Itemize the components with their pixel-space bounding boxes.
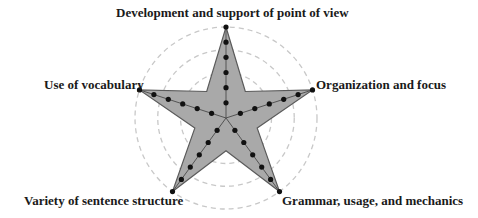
data-point-marker: [197, 152, 202, 157]
data-point-marker: [267, 101, 272, 106]
data-point-marker: [188, 165, 193, 170]
data-point-marker: [250, 152, 255, 157]
data-point-marker: [238, 111, 243, 116]
data-point-marker: [223, 55, 228, 60]
data-point-marker: [232, 128, 237, 133]
data-point-marker: [223, 100, 228, 105]
data-point-marker: [151, 92, 156, 97]
data-point-marker: [166, 97, 171, 102]
axis-label-sentence-structure: Variety of sentence structure: [24, 193, 183, 208]
data-point-marker: [215, 128, 220, 133]
axis-label-vocabulary: Use of vocabulary: [44, 77, 144, 92]
axis-lines: [139, 27, 312, 192]
data-point-marker: [223, 70, 228, 75]
data-point-marker: [223, 85, 228, 90]
axis-label-development: Development and support of point of view: [116, 5, 349, 20]
data-point-marker: [223, 40, 228, 45]
data-point-marker: [209, 111, 214, 116]
data-point-marker: [241, 140, 246, 145]
data-point-marker: [259, 165, 264, 170]
data-point-marker: [310, 87, 315, 92]
data-point-marker: [281, 97, 286, 102]
data-point-marker: [268, 177, 273, 182]
data-point-marker: [296, 92, 301, 97]
axis-label-grammar: Grammar, usage, and mechanics: [282, 193, 463, 208]
data-point-marker: [195, 106, 200, 111]
data-point-marker: [180, 101, 185, 106]
data-point-marker: [223, 24, 228, 29]
radar-chart: [0, 0, 478, 218]
data-point-marker: [206, 140, 211, 145]
axis-label-organization: Organization and focus: [316, 77, 446, 92]
data-point-marker: [252, 106, 257, 111]
data-point-marker: [179, 177, 184, 182]
